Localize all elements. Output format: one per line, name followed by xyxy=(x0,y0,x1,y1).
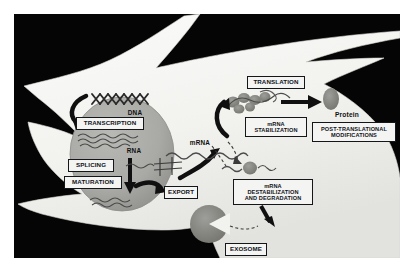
splicing-box: SPLICING xyxy=(68,159,114,172)
rna-label: RNA xyxy=(114,147,154,154)
exosome-box: EXOSOME xyxy=(225,243,267,256)
export-box: EXPORT xyxy=(164,186,198,199)
dna-label: DNA xyxy=(115,109,155,116)
mrna-stabilization-box: mRNA STABILIZATION xyxy=(245,117,307,137)
mrna-destabilization-degradation-box: mRNA DESTABILIZATION AND DEGRADATION xyxy=(233,179,313,205)
translation-box: TRANSLATION xyxy=(247,76,305,89)
protein-icon xyxy=(323,88,339,110)
figure-root: DNA RNA mRNA Protein TRANSCRIPTION SPLIC… xyxy=(0,0,412,277)
post-translational-modifications-box: POST-TRANSLATIONAL MODIFICATIONS xyxy=(312,122,396,142)
transcription-box: TRANSCRIPTION xyxy=(76,117,144,130)
maturation-box: MATURATION xyxy=(64,176,122,189)
protein-label: Protein xyxy=(325,111,369,118)
mrna-label: mRNA xyxy=(180,139,220,146)
diagram-canvas: DNA RNA mRNA Protein TRANSCRIPTION SPLIC… xyxy=(14,14,400,258)
